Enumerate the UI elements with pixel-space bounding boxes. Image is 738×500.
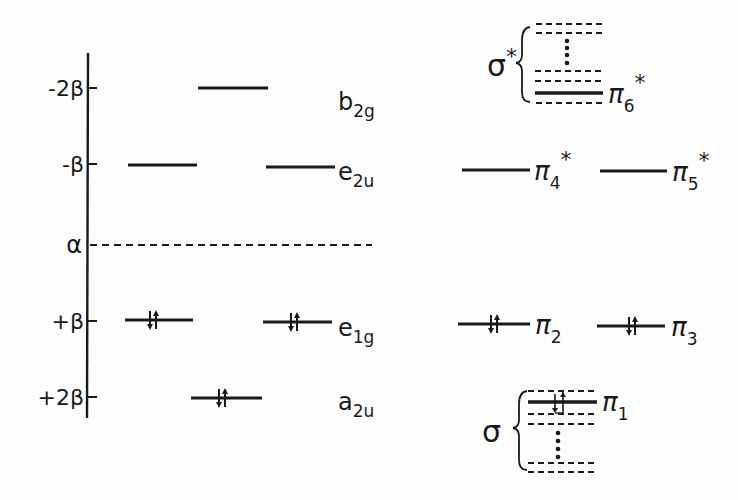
- level-pi2: [458, 314, 530, 334]
- label-e1g: e1g: [338, 314, 374, 347]
- energy-axis: [87, 53, 97, 418]
- tick-label-plus-beta: +β: [52, 309, 84, 334]
- label-sigma: σ: [482, 414, 501, 449]
- tick-label-minus-2beta: -2β: [48, 76, 84, 101]
- sigma-star-manifold: [516, 24, 605, 103]
- level-e2u: [128, 165, 335, 167]
- label-pi3: π3: [671, 312, 697, 349]
- label-pi4-star: π4*: [534, 147, 571, 193]
- label-a2u: a2u: [338, 388, 374, 421]
- label-pi5-star: π5*: [672, 148, 709, 194]
- sigma-manifold: [513, 391, 597, 472]
- tick-label-alpha: α: [66, 231, 82, 259]
- label-pi6-star: π6*: [608, 70, 645, 116]
- tick-label-plus-2beta: +2β: [38, 385, 84, 410]
- label-b2g: b2g: [338, 88, 375, 121]
- label-pi2: π2: [535, 310, 561, 347]
- tick-label-minus-beta: -β: [62, 152, 84, 177]
- mo-diagram: -2β -β α +β +2β b2g e2u e1g a2u π4* π5* …: [0, 0, 738, 500]
- label-pi1: π1: [602, 387, 628, 424]
- label-e2u: e2u: [338, 158, 374, 191]
- label-sigma-star: σ*: [487, 44, 517, 83]
- level-pi3: [597, 316, 665, 336]
- level-a2u: [191, 388, 262, 408]
- level-e1g: [125, 310, 332, 332]
